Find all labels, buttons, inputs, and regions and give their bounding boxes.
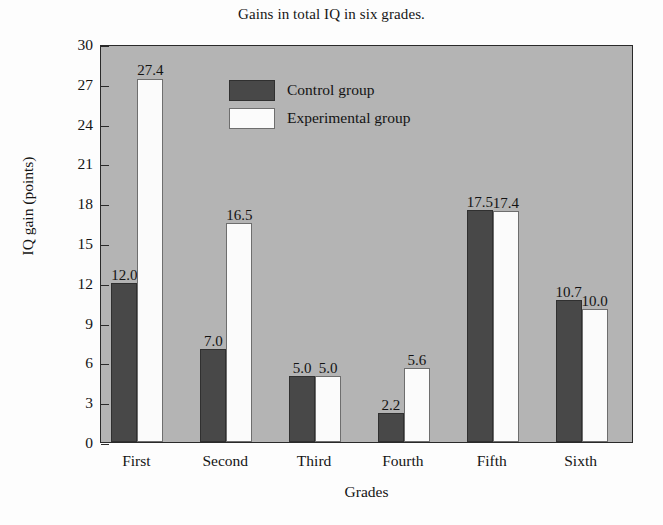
- y-axis-tick-labels: 036912151821242730: [55, 45, 93, 443]
- y-tick-mark: [101, 364, 109, 365]
- y-tick-label: 15: [59, 235, 93, 253]
- y-tick-mark: [101, 404, 109, 405]
- legend-item-experimental: Experimental group: [229, 104, 459, 132]
- bar-fourth-control: [378, 413, 404, 442]
- x-tick-label-fifth: Fifth: [442, 452, 542, 470]
- bar-value-label: 10.0: [581, 294, 607, 309]
- bar-value-label: 7.0: [204, 334, 223, 349]
- bar-fourth-experimental: [404, 368, 430, 442]
- bar-sixth-control: [556, 300, 582, 442]
- bar-value-label: 16.5: [226, 208, 252, 223]
- x-tick-label-first: First: [86, 452, 186, 470]
- x-tick-label-fourth: Fourth: [353, 452, 453, 470]
- bar-value-label: 12.0: [111, 268, 137, 283]
- x-axis-tick-labels: FirstSecondThirdFourthFifthSixth: [100, 452, 633, 476]
- y-tick-label: 9: [59, 315, 93, 333]
- legend-swatch-experimental-icon: [229, 108, 275, 129]
- x-tick-label-sixth: Sixth: [531, 452, 631, 470]
- y-tick-label: 0: [59, 434, 93, 452]
- y-tick-mark: [101, 245, 109, 246]
- y-tick-label: 24: [59, 116, 93, 134]
- y-tick-label: 6: [59, 354, 93, 372]
- x-tick-label-third: Third: [264, 452, 364, 470]
- y-tick-mark: [101, 126, 109, 127]
- bar-third-control: [289, 376, 315, 442]
- bar-value-label: 2.2: [382, 398, 401, 413]
- y-tick-label: 3: [59, 394, 93, 412]
- bar-value-label: 5.6: [408, 353, 427, 368]
- y-tick-mark: [101, 444, 109, 445]
- plot-area: 12.027.47.016.55.05.02.25.617.517.410.71…: [100, 45, 633, 443]
- y-tick-mark: [101, 325, 109, 326]
- bar-value-label: 5.0: [319, 361, 338, 376]
- y-tick-mark: [101, 86, 109, 87]
- bar-fifth-experimental: [493, 211, 519, 442]
- legend-swatch-control-icon: [229, 80, 275, 101]
- bar-second-control: [200, 349, 226, 442]
- bar-value-label: 17.4: [493, 196, 519, 211]
- bar-value-label: 27.4: [137, 63, 163, 78]
- chart-legend: Control group Experimental group: [229, 76, 459, 132]
- y-tick-label: 12: [59, 275, 93, 293]
- legend-label-experimental: Experimental group: [287, 109, 411, 127]
- chart-title: Gains in total IQ in six grades.: [0, 6, 663, 23]
- bar-first-experimental: [137, 79, 163, 443]
- x-axis-title: Grades: [100, 483, 633, 501]
- x-tick-label-second: Second: [175, 452, 275, 470]
- y-tick-mark: [101, 46, 109, 47]
- y-tick-mark: [101, 205, 109, 206]
- bar-first-control: [111, 283, 137, 442]
- y-tick-label: 18: [59, 195, 93, 213]
- y-tick-mark: [101, 285, 109, 286]
- bar-third-experimental: [315, 376, 341, 442]
- bar-second-experimental: [226, 223, 252, 442]
- bar-sixth-experimental: [582, 309, 608, 442]
- bar-value-label: 5.0: [293, 361, 312, 376]
- y-tick-label: 21: [59, 155, 93, 173]
- chart-figure: Gains in total IQ in six grades. IQ gain…: [0, 0, 663, 525]
- bar-value-label: 17.5: [467, 195, 493, 210]
- bar-fifth-control: [467, 210, 493, 442]
- y-tick-mark: [101, 165, 109, 166]
- bar-value-label: 10.7: [555, 285, 581, 300]
- legend-item-control: Control group: [229, 76, 459, 104]
- y-tick-label: 27: [59, 76, 93, 94]
- y-axis-title: IQ gain (points): [19, 86, 37, 326]
- y-tick-label: 30: [59, 36, 93, 54]
- legend-label-control: Control group: [287, 81, 374, 99]
